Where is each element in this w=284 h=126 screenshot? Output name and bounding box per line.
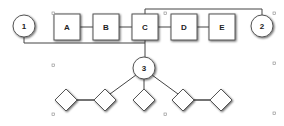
box-node-c[interactable]: C — [132, 14, 158, 40]
selection-handle[interactable] — [164, 113, 167, 116]
svg-text:1: 1 — [22, 22, 27, 31]
selection-handle[interactable] — [164, 12, 167, 15]
connector-3-d4[interactable] — [152, 75, 178, 94]
box-node-b[interactable]: B — [93, 14, 119, 40]
svg-text:E: E — [219, 23, 225, 32]
circle-node-1[interactable]: 1 — [13, 15, 35, 37]
connector-c-2[interactable] — [145, 9, 262, 15]
box-node-d[interactable]: D — [171, 14, 197, 40]
box-node-a[interactable]: A — [54, 14, 80, 40]
diagram-canvas: 1 2 3 A B C D E — [0, 0, 284, 126]
svg-text:D: D — [181, 23, 187, 32]
diamond-node-1[interactable] — [55, 89, 77, 111]
svg-text:A: A — [64, 23, 70, 32]
selection-handle[interactable] — [273, 62, 276, 65]
circle-node-3[interactable]: 3 — [133, 57, 155, 79]
diamond-node-5[interactable] — [210, 89, 232, 111]
selection-handle[interactable] — [52, 113, 55, 116]
circle-node-2[interactable]: 2 — [251, 15, 273, 37]
connector-1-c[interactable] — [24, 37, 145, 43]
selection-handle[interactable] — [273, 112, 276, 115]
svg-text:2: 2 — [260, 22, 265, 31]
selection-handle[interactable] — [273, 12, 276, 15]
svg-text:B: B — [103, 23, 109, 32]
selection-handle[interactable] — [52, 64, 55, 67]
selection-handle[interactable] — [52, 12, 55, 15]
diamond-node-3[interactable] — [133, 89, 155, 111]
svg-text:3: 3 — [142, 64, 147, 73]
connector-3-d2[interactable] — [110, 75, 136, 94]
svg-text:C: C — [142, 23, 148, 32]
box-node-e[interactable]: E — [209, 14, 235, 40]
